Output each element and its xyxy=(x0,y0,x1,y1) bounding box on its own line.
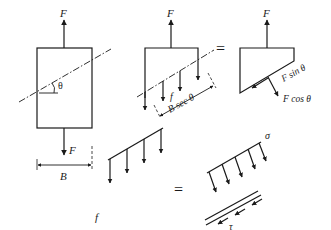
normal-stress-arrow xyxy=(259,143,266,161)
shear-stress-arrow xyxy=(252,199,262,205)
cut-plane-line xyxy=(19,49,111,102)
normal-stress-arrow xyxy=(235,157,242,177)
stress-components-panel xyxy=(205,142,266,225)
normal-stress-arrow xyxy=(209,172,216,192)
inclined-plane-stress-diagram: F θ F B F f B sec θ = F F sin θ F cos θ … xyxy=(0,0,331,230)
whole-bar-panel xyxy=(19,20,111,170)
shear-component-arrow xyxy=(252,78,268,88)
shear-plane-line-1 xyxy=(205,191,258,220)
normal-stress-arrow xyxy=(248,149,255,169)
label-width-b: B xyxy=(60,171,67,182)
label-angle-theta: θ xyxy=(58,81,63,91)
shear-plane-line-2 xyxy=(206,195,261,225)
distributed-plane-panel xyxy=(108,128,163,183)
equals-sign-2: = xyxy=(174,182,183,198)
label-sigma: σ xyxy=(265,131,270,141)
bar-rectangle xyxy=(37,48,92,128)
angle-arc xyxy=(52,83,55,93)
dim-extension-left xyxy=(154,105,160,117)
label-f-cos-theta: F cos θ xyxy=(283,95,311,105)
label-distributed-f-bottom: f xyxy=(95,212,98,223)
dim-extension-right xyxy=(208,73,216,88)
label-force-top-cut: F xyxy=(167,8,174,19)
plane-line xyxy=(108,128,163,160)
equals-sign-1: = xyxy=(216,41,225,57)
cut-plane-line xyxy=(137,50,214,97)
label-force-top-whole: F xyxy=(60,8,67,19)
shear-stress-arrow xyxy=(218,218,228,224)
shear-stress-arrow xyxy=(235,209,245,215)
label-force-bottom-whole: F xyxy=(69,145,76,156)
normal-stress-arrow xyxy=(222,164,229,184)
label-tau: τ xyxy=(229,222,233,230)
resolved-forces-panel xyxy=(240,20,294,96)
diagram-canvas xyxy=(0,0,331,230)
label-force-top-resolved: F xyxy=(263,8,270,19)
normal-stress-plane xyxy=(207,142,261,173)
normal-component-arrow xyxy=(268,77,278,96)
